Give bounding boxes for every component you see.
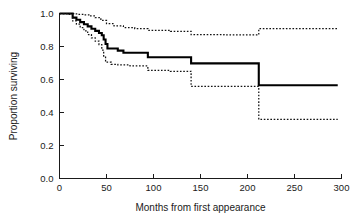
x-axis-title: Months from first appearance	[135, 202, 265, 213]
x-tick-label: 0	[57, 182, 62, 193]
x-tick-label: 250	[287, 182, 303, 193]
survival-chart-figure: 0501001502002503000.00.20.40.60.81.0Mont…	[0, 0, 352, 222]
x-tick-label: 150	[193, 182, 209, 193]
x-tick-label: 300	[334, 182, 350, 193]
y-tick-label: 1.0	[40, 8, 53, 19]
km-upper-confidence-curve	[60, 14, 338, 35]
km-lower-confidence-curve	[60, 14, 338, 120]
y-tick-label: 0.2	[40, 140, 53, 151]
plot-axes	[60, 13, 342, 179]
y-tick-label: 0.4	[40, 107, 53, 118]
y-tick-label: 0.8	[40, 41, 53, 52]
x-tick-label: 200	[240, 182, 256, 193]
x-tick-label: 50	[101, 182, 112, 193]
km-survival-curve	[60, 14, 338, 86]
y-axis-title: Proportion surviving	[8, 52, 19, 140]
y-tick-label: 0.6	[40, 74, 53, 85]
y-tick-label: 0.0	[40, 173, 53, 184]
kaplan-meier-plot: 0501001502002503000.00.20.40.60.81.0Mont…	[0, 0, 352, 222]
x-tick-label: 100	[146, 182, 162, 193]
